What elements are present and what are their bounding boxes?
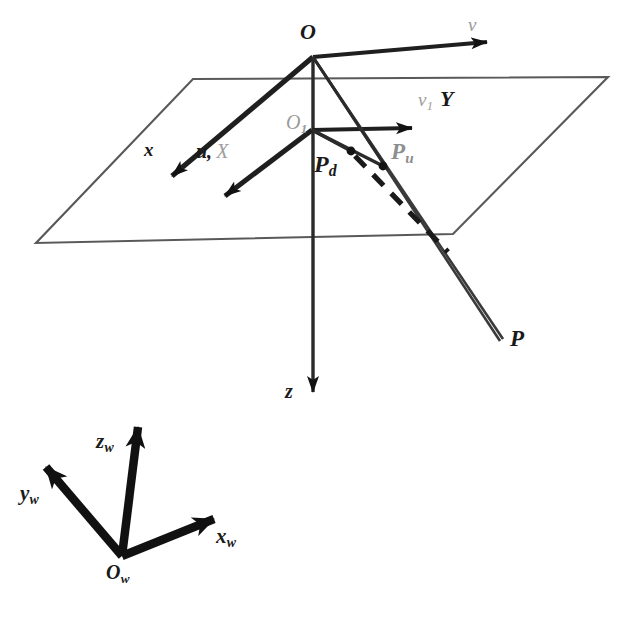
label-axis-v: v [468,15,476,34]
label-point-Pd: Pd [314,152,337,179]
label-world-axis-zw: zw [96,431,114,455]
world-axis-zw-arrow [122,427,138,556]
camera-projection-figure: O v x z O1 u,X v1Y Pd Pu P zw yw xw Ow [0,0,632,620]
label-world-axis-yw: yw [20,483,39,507]
dashed-distortion-line [355,156,448,252]
point-pd-marker [347,147,356,156]
label-world-axis-xw: xw [216,526,236,550]
label-axis-u-X: u,X [196,141,228,161]
label-point-P: P [510,327,524,350]
world-axis-xw-arrow [122,519,214,556]
axis-v-arrow [313,42,487,57]
label-point-Pu: Pu [391,140,414,165]
point-pu-marker [379,162,388,171]
label-origin-O1: O1 [286,112,307,135]
diagram-canvas [0,0,632,620]
axis-u-arrow [225,130,312,196]
label-axis-z: z [285,381,293,401]
label-origin-O: O [300,21,316,43]
label-axis-x: x [144,140,154,159]
label-world-origin-Ow: Ow [106,562,129,585]
label-axis-v1-Y: v1Y [418,88,453,112]
world-axis-yw-arrow [46,467,122,556]
